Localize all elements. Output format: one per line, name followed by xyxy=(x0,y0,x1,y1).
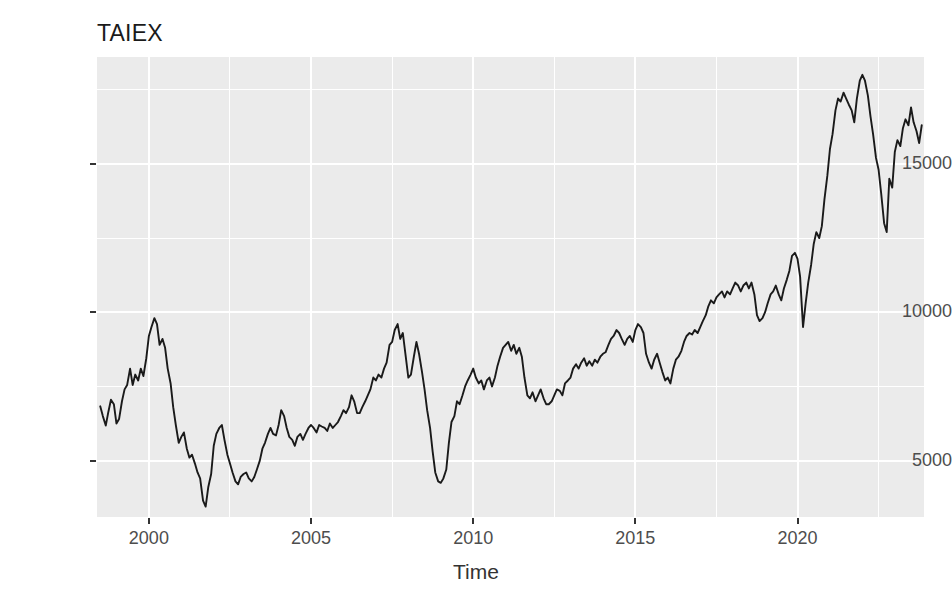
chart-title: TAIEX xyxy=(97,20,163,47)
x-axis-tick xyxy=(148,518,150,524)
y-axis-tick xyxy=(90,311,96,313)
y-axis-label: 15000 xyxy=(866,153,952,174)
x-axis-title: Time xyxy=(0,560,952,584)
y-axis-tick xyxy=(90,460,96,462)
taiex-chart: TAIEX 5000100001500020002005201020152020… xyxy=(0,0,952,611)
x-axis-tick xyxy=(797,518,799,524)
x-axis-label: 2000 xyxy=(109,528,189,549)
plot-panel xyxy=(97,57,924,517)
x-axis-label: 2015 xyxy=(595,528,675,549)
y-axis-tick xyxy=(90,163,96,165)
series-line-chart xyxy=(97,57,924,517)
x-axis-label: 2005 xyxy=(271,528,351,549)
y-axis-label: 5000 xyxy=(866,450,952,471)
x-axis-tick xyxy=(472,518,474,524)
x-axis-tick xyxy=(310,518,312,524)
x-axis-label: 2020 xyxy=(758,528,838,549)
taiex-series-path xyxy=(100,75,921,507)
y-axis-label: 10000 xyxy=(866,301,952,322)
x-axis-tick xyxy=(634,518,636,524)
x-axis-label: 2010 xyxy=(433,528,513,549)
